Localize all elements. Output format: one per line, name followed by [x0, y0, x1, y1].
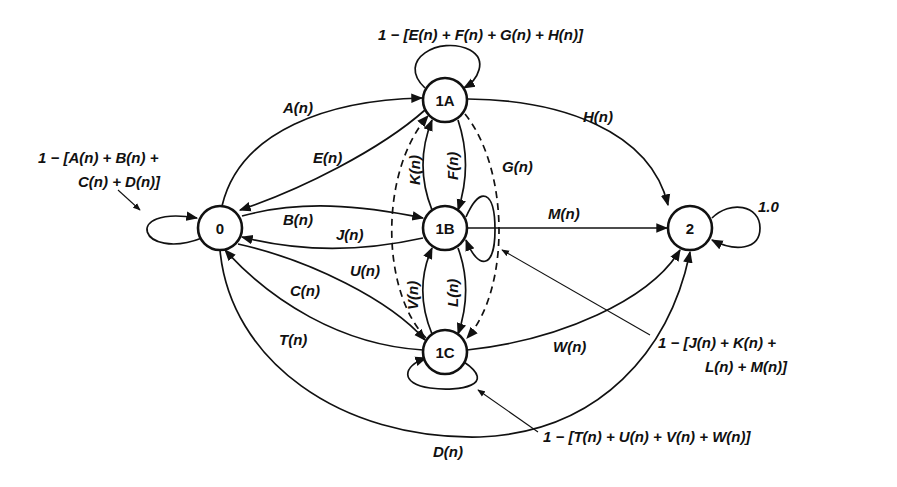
label-C: C(n): [290, 282, 320, 299]
label-D: D(n): [433, 443, 463, 460]
node-2: 2: [668, 206, 712, 250]
loop-note-1B-line1: 1 − [J(n) + K(n) +: [658, 334, 776, 351]
label-H: H(n): [583, 108, 613, 125]
label-E: E(n): [313, 149, 342, 166]
loop-note-1C: 1 − [T(n) + U(n) + V(n) + W(n)]: [543, 428, 751, 445]
edge-J: [242, 237, 423, 248]
pointer-1C: [478, 390, 538, 432]
edge-H: [468, 99, 668, 205]
label-J: J(n): [336, 226, 364, 243]
pointer-1B: [502, 250, 650, 335]
edge-T: [225, 250, 423, 350]
node-0: 0: [198, 206, 242, 250]
label-M: M(n): [548, 205, 580, 222]
label-T: T(n): [279, 331, 307, 348]
loop-note-1A: 1 − [E(n) + F(n) + G(n) + H(n)]: [378, 26, 584, 43]
label-W: W(n): [553, 338, 586, 355]
pointer-0: [118, 190, 140, 210]
label-G: G(n): [502, 158, 533, 175]
loop-note-2: 1.0: [758, 198, 780, 215]
label-A: A(n): [282, 99, 313, 116]
loop-note-0-line1: 1 − [A(n) + B(n) +: [38, 149, 159, 166]
label-B: B(n): [283, 211, 313, 228]
state-transition-diagram: 0 1A 1B 1C 2 A(n) E(n) B(n) J(n) U(n) C(…: [0, 0, 897, 487]
edge-W: [467, 250, 680, 350]
label-F: F(n): [444, 152, 461, 180]
edge-K: [423, 120, 432, 210]
svg-text:0: 0: [216, 220, 224, 237]
loop-note-1B-line2: L(n) + M(n)]: [705, 358, 788, 375]
node-1B: 1B: [423, 206, 467, 250]
label-L: L(n): [444, 279, 461, 307]
self-loop-0: [147, 216, 202, 244]
label-K: K(n): [406, 155, 423, 185]
node-1A: 1A: [423, 78, 467, 122]
self-loop-2: [712, 207, 760, 247]
label-V: V(n): [404, 281, 421, 310]
svg-text:2: 2: [686, 220, 694, 237]
edge-V: [423, 248, 432, 334]
svg-text:1C: 1C: [435, 344, 454, 361]
svg-text:1B: 1B: [435, 220, 454, 237]
node-1C: 1C: [423, 330, 467, 374]
edge-C: [238, 244, 425, 340]
label-U: U(n): [350, 262, 380, 279]
loop-note-0-line2: C(n) + D(n)]: [78, 173, 161, 190]
svg-text:1A: 1A: [435, 92, 454, 109]
edge-B: [242, 206, 423, 218]
edge-G: [465, 114, 499, 338]
